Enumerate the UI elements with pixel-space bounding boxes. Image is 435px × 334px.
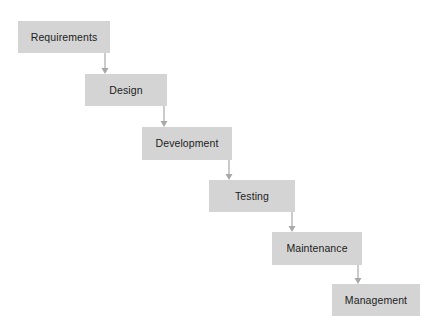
stage-label-maintenance: Maintenance (286, 243, 347, 254)
waterfall-diagram-canvas: Requirements Design Development Testing … (0, 0, 435, 334)
stage-box-design[interactable]: Design (85, 74, 167, 106)
stage-label-development: Development (156, 138, 219, 149)
stage-box-requirements[interactable]: Requirements (18, 21, 110, 53)
stage-box-management[interactable]: Management (332, 284, 420, 316)
stage-box-testing[interactable]: Testing (209, 180, 295, 212)
stage-label-design: Design (109, 85, 142, 96)
stage-box-development[interactable]: Development (142, 127, 232, 160)
stage-label-management: Management (345, 295, 407, 306)
stage-label-testing: Testing (235, 191, 269, 202)
stage-label-requirements: Requirements (31, 32, 98, 43)
stage-box-maintenance[interactable]: Maintenance (272, 232, 362, 265)
